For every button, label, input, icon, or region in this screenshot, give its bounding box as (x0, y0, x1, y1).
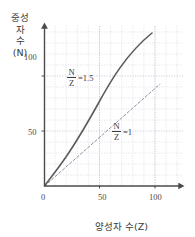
x-tick-label-50: 50 (98, 192, 107, 202)
fraction-numerator: N (112, 122, 120, 131)
fraction-n-over-z: N Z (67, 68, 76, 87)
reference-line-nz-1 (45, 84, 161, 186)
grid-lines (44, 26, 183, 186)
x-axis-title: 양성자 수(Z) (95, 219, 148, 233)
figure-root: 중성자 수 (N) 양성자 수(Z) 100 50 0 50 100 N Z =… (0, 0, 195, 237)
grid-major-lines (44, 26, 183, 186)
fraction-denominator: Z (68, 79, 75, 88)
y-tick-label-100: 100 (24, 52, 37, 62)
annotation-value: =1.5 (78, 73, 93, 83)
annotation-ratio-1-5: N Z =1.5 (67, 68, 93, 87)
stability-band-curve (45, 33, 153, 186)
annotation-value: =1 (123, 127, 132, 137)
fraction-denominator: Z (113, 133, 120, 142)
y-tick-label-50: 50 (28, 127, 37, 137)
x-tick-label-100: 100 (149, 192, 162, 202)
annotation-ratio-1: N Z =1 (112, 122, 132, 141)
fraction-numerator: N (67, 68, 75, 77)
axis-ticks (42, 76, 156, 189)
fraction-n-over-z: N Z (112, 122, 121, 141)
x-tick-label-0: 0 (41, 192, 45, 202)
